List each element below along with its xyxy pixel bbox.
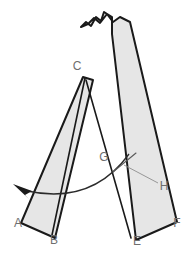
- vertex-label-h: H: [160, 179, 169, 193]
- vertex-label-b: B: [50, 233, 58, 247]
- vertex-label-e: E: [133, 234, 141, 248]
- rotation-arrow-head-icon: [13, 184, 32, 200]
- vertex-label-c: C: [73, 59, 82, 73]
- strips-diagram: A B C E F G H: [0, 0, 190, 261]
- vertex-label-f: F: [173, 216, 180, 230]
- vertex-label-g: G: [99, 150, 108, 164]
- vertex-label-a: A: [14, 216, 22, 230]
- right-strip: [81, 12, 177, 240]
- figure-container: A B C E F G H: [0, 0, 190, 261]
